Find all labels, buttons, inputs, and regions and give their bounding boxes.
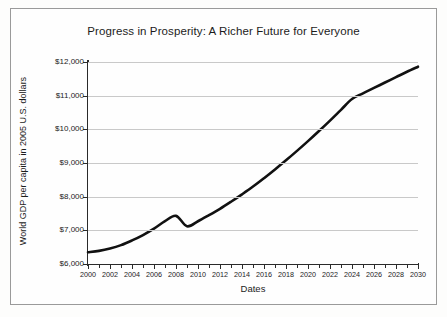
- y-axis-tick: [83, 163, 88, 164]
- x-axis-tick: [330, 264, 331, 269]
- y-axis-tick-label: $7,000: [38, 225, 84, 234]
- x-axis-tick: [297, 264, 298, 268]
- x-axis-tick: [110, 264, 111, 269]
- x-axis-tick-label: 2020: [300, 270, 316, 279]
- gdp-per-capita-line: [88, 67, 418, 253]
- x-axis-tick: [187, 264, 188, 268]
- x-axis-tick: [385, 264, 386, 268]
- x-axis-tick: [231, 264, 232, 268]
- y-axis-tick-labels: $12,000$11,000$10,000$9,000$8,000$7,000$…: [36, 0, 84, 317]
- x-axis-tick: [154, 264, 155, 269]
- y-axis-tick: [83, 129, 88, 130]
- y-axis-tick-label: $6,000: [38, 259, 84, 268]
- x-axis-tick: [99, 264, 100, 268]
- x-axis-tick: [275, 264, 276, 268]
- y-axis-tick-label: $9,000: [38, 158, 84, 167]
- x-axis-tick: [363, 264, 364, 268]
- x-axis-tick: [407, 264, 408, 268]
- y-axis-tick: [83, 96, 88, 97]
- gridline-y: [88, 197, 418, 198]
- x-axis-tick: [264, 264, 265, 269]
- x-axis-tick-label: 2030: [410, 270, 426, 279]
- y-axis-tick-label: $11,000: [38, 91, 84, 100]
- x-axis-tick: [286, 264, 287, 269]
- x-axis-tick: [176, 264, 177, 269]
- x-axis-title: Dates: [88, 283, 418, 294]
- y-axis-tick: [83, 197, 88, 198]
- x-axis-tick-label: 2028: [388, 270, 404, 279]
- x-axis-tick-label: 2012: [212, 270, 228, 279]
- gridline-y: [88, 62, 418, 63]
- x-axis-tick: [88, 264, 89, 269]
- x-axis-tick: [308, 264, 309, 269]
- x-axis-tick: [121, 264, 122, 268]
- x-axis-tick: [209, 264, 210, 268]
- x-axis-tick-label: 2006: [146, 270, 162, 279]
- x-axis-tick-label: 2022: [322, 270, 338, 279]
- plot-area: [88, 62, 418, 264]
- y-axis-title: World GDP per capita in 2005 U.S. dollar…: [18, 61, 28, 261]
- x-axis-tick: [253, 264, 254, 268]
- x-axis-tick: [143, 264, 144, 268]
- gridline-y: [88, 230, 418, 231]
- y-axis-tick-label: $10,000: [38, 124, 84, 133]
- x-axis-tick: [396, 264, 397, 269]
- x-axis-tick: [198, 264, 199, 269]
- x-axis-tick: [220, 264, 221, 269]
- x-axis-tick: [319, 264, 320, 268]
- x-axis-tick: [132, 264, 133, 269]
- x-axis-tick-label: 2018: [278, 270, 294, 279]
- x-axis-tick: [242, 264, 243, 269]
- x-axis-tick: [341, 264, 342, 268]
- x-axis-tick-label: 2000: [80, 270, 96, 279]
- y-axis-tick: [83, 62, 88, 63]
- gridline-y: [88, 96, 418, 97]
- x-axis-tick: [374, 264, 375, 269]
- y-axis-tick-label: $12,000: [38, 57, 84, 66]
- gridline-y: [88, 129, 418, 130]
- x-axis-tick-label: 2004: [124, 270, 140, 279]
- gridline-y: [88, 163, 418, 164]
- x-axis-tick-label: 2008: [168, 270, 184, 279]
- y-axis-tick-label: $8,000: [38, 192, 84, 201]
- x-axis-tick: [165, 264, 166, 268]
- x-axis-tick: [352, 264, 353, 269]
- chart-figure: Progress in Prosperity: A Richer Future …: [0, 0, 447, 317]
- x-axis-tick-label: 2014: [234, 270, 250, 279]
- x-axis-tick-label: 2016: [256, 270, 272, 279]
- y-axis-tick: [83, 230, 88, 231]
- x-axis-tick-label: 2024: [344, 270, 360, 279]
- x-axis-tick-label: 2026: [366, 270, 382, 279]
- x-axis-tick-label: 2002: [102, 270, 118, 279]
- x-axis-tick-label: 2010: [190, 270, 206, 279]
- x-axis-tick: [418, 264, 419, 269]
